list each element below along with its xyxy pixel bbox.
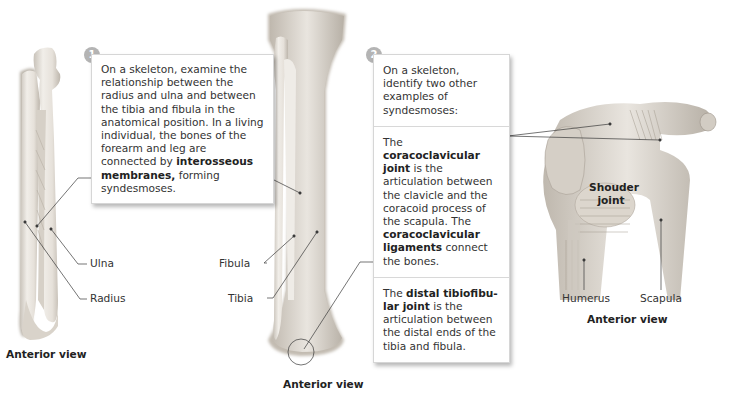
label-tibia: Tibia (228, 292, 253, 304)
forearm-caption: Anterior view (6, 348, 87, 360)
label-fibula: Fibula (219, 257, 250, 269)
forearm-bones-illustration (19, 48, 60, 340)
label-radius: Radius (90, 292, 126, 304)
label-ulna: Ulna (90, 257, 114, 269)
step-1-callout: On a skeleton, examine the relationship … (91, 54, 274, 204)
label-humerus: Humerus (562, 292, 610, 304)
leg-caption: Anterior view (283, 378, 364, 390)
tibiofibular-section: The distal tibiofibu-lar joint is the ar… (374, 277, 509, 362)
step-2-callout: On a skeleton, identify two other exampl… (373, 54, 510, 363)
shoulder-caption: Anterior view (587, 313, 668, 325)
coracoclavicular-section: The coracoclavicular joint is the articu… (374, 126, 509, 277)
label-scapula: Scapula (640, 292, 682, 304)
step-2-intro: On a skeleton, identify two other exampl… (374, 55, 509, 126)
label-shoulder-joint: Shouder joint (589, 181, 633, 207)
step-1-text: On a skeleton, examine the relationship … (101, 63, 265, 195)
